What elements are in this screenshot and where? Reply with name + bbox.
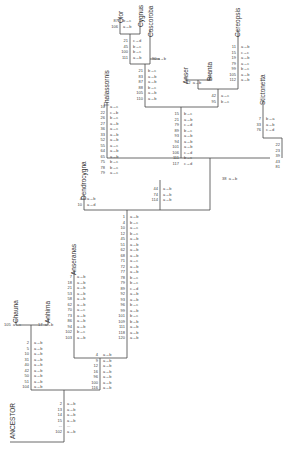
branch-thalassornis-changes: a→cc→bb→ca→ba→ca→ba→ba→ca→ba→bb→cb→ca→c [110, 104, 118, 176]
taxon-stictonetta: Stictonetta [259, 74, 266, 105]
branch-anhimidae-changes: a→ba→ba→ba→ba→ba→ba→ba→ba→b [34, 340, 42, 390]
branch-chauna: 105 a→c [4, 322, 21, 328]
branch-dendrocygna: 410 [68, 196, 82, 207]
branch-root: 2131415...102 [48, 401, 62, 434]
branch-anhima: 17 a→b [38, 322, 53, 328]
branch-stictonetta-changes: b→aa→bc→d [266, 116, 274, 133]
taxon-ancestor: ANCESTOR [9, 403, 16, 439]
branch-anhimidae: 25103140425051104 [15, 340, 29, 390]
branch-cereopsis: 1115197999105112 [222, 44, 236, 83]
branch-anseriformes-changes: a→ba→ba→ba→ba→ba→ba→b [103, 352, 111, 391]
branch-stictonetta-join: 38 a→b [222, 176, 237, 182]
branch-geese: 4295 [202, 93, 216, 104]
branch-dendrocygna-changes: a→ba→d [87, 196, 95, 207]
branch-olor: 87106 [104, 18, 118, 29]
branch-anseranas: 7182153586270738694102103 [58, 274, 72, 340]
branch-olor-changes: b→ca→b [123, 18, 131, 29]
branch-coscoroba: 90 a→b [152, 56, 166, 62]
branch-cygnus: 2145100111 [114, 38, 128, 60]
branch-anatidae: 1410124551626871727778798992939699101109… [111, 214, 125, 341]
branch-thalassornis: 10222627363352556465757879 [91, 104, 105, 176]
taxon-branta: Branta [206, 62, 213, 81]
branch-anatidae-changes: a→bb→ca→cb→ca→ba→ba→ba→ba→ca→ba→bb→cb→cc… [130, 214, 138, 341]
branch-root-changes: a→ba→ba→ba→b...a→b [67, 401, 75, 434]
taxon-chauna: Chauna [12, 300, 19, 323]
branch-branta: 42 a→b [186, 80, 201, 86]
branch-anserinae: 152179899394101106111117 [165, 111, 179, 166]
taxon-cereopsis: Cereopsis [234, 8, 241, 37]
taxon-anseranas: Anseranas [70, 244, 77, 275]
branch-dendro-join: 4474114 [144, 186, 158, 203]
branch-dendro-join-changes: a→ba→ba→b [163, 186, 171, 203]
branch-geese-changes: a→cb→c [221, 93, 229, 104]
branch-anserinae-changes: b→ca→bc→db→ca→ba→ba→bc→db→cc→d [184, 111, 192, 166]
taxon-anhima: Anhima [44, 301, 51, 323]
taxon-cygnus: Cygnus [137, 5, 144, 27]
branch-stictonetta-base: 2223394381 [266, 142, 280, 170]
branch-anseriformes: 49121696100116 [84, 352, 98, 391]
branch-anseranas-changes: a→ba→ba→ba→ba→ba→ba→ca→ba→ba→bb→ca→b [77, 274, 85, 340]
taxon-dendrocygna: Dendrocygna [80, 161, 87, 200]
branch-swans: 21838788105110 [129, 68, 143, 101]
branch-stictonetta: 73376 [247, 116, 261, 133]
branch-cygnus-changes: c→db→cb→ca→b [133, 38, 141, 60]
taxon-thalassornis: Thalassornis [103, 70, 110, 107]
branch-swans-changes: b→ca→ba→bb→ca→ba→b [148, 68, 156, 101]
taxon-coscoroba: Coscoroba [147, 6, 154, 37]
branch-cereopsis-changes: a→bc→ca→ba→cb→ca→ba→b [241, 44, 249, 83]
